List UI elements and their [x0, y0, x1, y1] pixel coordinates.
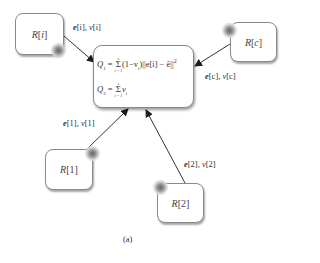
equation-q2: Q2 = Σci = 1vi — [97, 84, 127, 96]
edge-r1-to-center — [86, 109, 128, 150]
node-r-2-label: R[2] — [172, 198, 190, 209]
node-r-i-dot-icon — [52, 44, 65, 57]
equation-q1: Q1 = Σci = 1(1−vi)||e[i] − ē||2 — [97, 58, 177, 71]
edge-ri-to-center — [64, 36, 94, 62]
node-r-i-label: R[i] — [32, 29, 48, 40]
center-node: Q1 = Σci = 1(1−vi)||e[i] − ē||2 Q2 = Σci… — [93, 45, 194, 108]
edge-label-r1: e[1], v[1] — [63, 118, 95, 128]
figure-caption: (a) — [123, 234, 132, 244]
edge-label-rc: e[c], v[c] — [205, 71, 236, 81]
node-r-1-dot-icon — [86, 147, 99, 160]
sum-symbol-q1: Σci = 1 — [116, 59, 121, 69]
node-r-c-dot-icon — [223, 24, 236, 37]
edge-label-ri: e[i], v[i] — [73, 22, 101, 32]
node-r-1-label: R[1] — [60, 164, 78, 175]
node-r-2-dot-icon — [154, 181, 167, 194]
edge-r2-to-center — [146, 110, 185, 183]
node-r-c: R[c] — [230, 22, 277, 62]
edge-rc-to-center — [195, 44, 230, 66]
edge-label-r2: e[2], v[2] — [184, 159, 216, 169]
sum-symbol-q2: Σci = 1 — [116, 84, 121, 94]
node-r-c-label: R[c] — [245, 37, 262, 48]
